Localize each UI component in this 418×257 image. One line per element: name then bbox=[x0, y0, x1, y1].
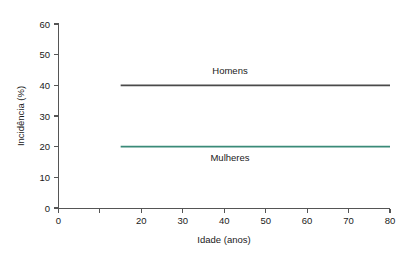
x-tick-label-30: 30 bbox=[178, 215, 189, 226]
chart-background bbox=[0, 0, 418, 257]
x-tick-label-80: 80 bbox=[385, 215, 396, 226]
series-label-homens: Homens bbox=[212, 65, 248, 76]
x-tick-label-50: 50 bbox=[260, 215, 271, 226]
line-chart: 0 10 20 30 40 50 60 Incidência (%) 0 20 … bbox=[0, 0, 418, 257]
x-tick-label-0: 0 bbox=[56, 215, 61, 226]
y-tick-label-60: 60 bbox=[39, 19, 50, 30]
y-axis-title: Incidência (%) bbox=[15, 86, 26, 146]
series-label-mulheres: Mulheres bbox=[210, 152, 249, 163]
x-tick-label-60: 60 bbox=[302, 215, 313, 226]
x-tick-label-20: 20 bbox=[136, 215, 147, 226]
x-tick-label-40: 40 bbox=[219, 215, 230, 226]
y-tick-label-50: 50 bbox=[39, 49, 50, 60]
x-tick-label-70: 70 bbox=[343, 215, 354, 226]
y-tick-label-40: 40 bbox=[39, 80, 50, 91]
y-tick-label-30: 30 bbox=[39, 111, 50, 122]
y-tick-label-10: 10 bbox=[39, 172, 50, 183]
y-tick-label-0: 0 bbox=[45, 203, 50, 214]
x-axis-title: Idade (anos) bbox=[197, 234, 250, 245]
y-tick-label-20: 20 bbox=[39, 141, 50, 152]
chart-figure: 0 10 20 30 40 50 60 Incidência (%) 0 20 … bbox=[0, 0, 418, 257]
